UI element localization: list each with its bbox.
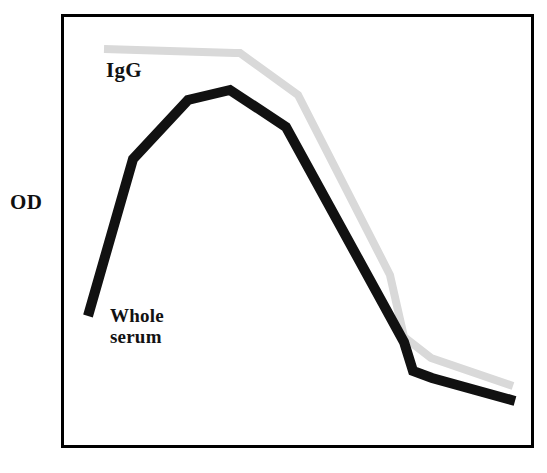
chart-figure: OD IgG Whole serum	[0, 0, 547, 473]
y-axis-title: OD	[10, 191, 43, 214]
series-label-whole-serum: Whole serum	[110, 305, 164, 348]
series-label-igg: IgG	[106, 59, 142, 83]
chart-background	[0, 0, 547, 473]
line-chart-canvas	[0, 0, 547, 473]
